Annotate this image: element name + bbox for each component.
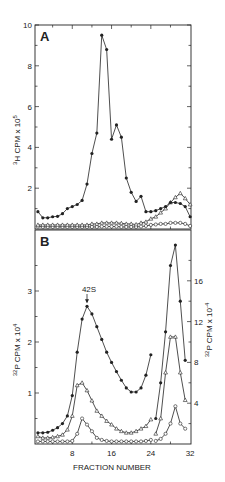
filled-circle-marker xyxy=(164,330,167,333)
open-circle-marker xyxy=(130,440,133,443)
filled-circle-marker xyxy=(66,414,69,417)
filled-circle-marker xyxy=(41,431,44,434)
open-circle-marker xyxy=(154,439,157,442)
filled-circle-marker xyxy=(46,431,49,434)
filled-circle-marker xyxy=(135,200,138,203)
open-circle-marker xyxy=(105,225,108,228)
filled-circle-marker xyxy=(115,370,118,373)
filled-circle-marker xyxy=(46,216,49,219)
filled-circle-marker xyxy=(159,381,162,384)
open-circle-marker xyxy=(174,221,177,224)
open-circle-marker xyxy=(184,222,187,225)
open-circle-marker xyxy=(159,437,162,440)
open-circle-marker xyxy=(189,224,192,227)
open-circle-marker xyxy=(110,440,113,443)
open-triangle-marker xyxy=(80,381,84,384)
panel-b-plot: 1234812168162432 xyxy=(28,230,204,458)
y-tick-label: 6 xyxy=(28,103,33,112)
open-circle-marker xyxy=(71,439,74,442)
filled-circle-marker xyxy=(144,210,147,213)
filled-circle-marker xyxy=(169,201,172,204)
y-axis-title-b-left: 32P CPM x 104 xyxy=(12,323,22,376)
y-tick-label: 8 xyxy=(28,62,33,71)
x-axis-label: FRACTION NUMBER xyxy=(73,463,151,472)
y-tick-label-right: 4 xyxy=(194,399,199,408)
svg-text:32P CPM x 10-4: 32P CPM x 10-4 xyxy=(204,302,214,357)
y-tick-label-right: 8 xyxy=(194,358,199,367)
open-circle-marker xyxy=(169,221,172,224)
open-circle-marker xyxy=(154,223,157,226)
open-circle-marker xyxy=(149,438,152,441)
open-circle-marker xyxy=(41,440,44,443)
y-axis-title-a: 3H CPM x 105 xyxy=(12,114,22,164)
open-triangle-marker xyxy=(178,191,182,194)
open-circle-marker xyxy=(95,225,98,228)
filled-circle-marker xyxy=(105,48,108,51)
open-circle-marker xyxy=(184,427,187,430)
filled-circle-marker xyxy=(66,207,69,210)
open-circle-marker xyxy=(125,440,128,443)
open-circle-marker xyxy=(125,225,128,228)
y-tick-label: 2 xyxy=(28,184,33,193)
y-tick-label: 1 xyxy=(28,389,33,398)
y-axis-title-b-right: 32P CPM x 10-4 xyxy=(204,302,214,357)
filled-circle-marker xyxy=(115,123,118,126)
open-circle-marker xyxy=(164,222,167,225)
panel-a-label: A xyxy=(40,29,50,44)
filled-circle-marker xyxy=(105,351,108,354)
filled-circle-marker xyxy=(125,176,128,179)
filled-circle-marker xyxy=(179,300,182,303)
open-circle-marker xyxy=(46,440,49,443)
filled-circle-marker xyxy=(154,417,157,420)
y-tick-label: 4 xyxy=(28,143,33,152)
x-tick-label: 32 xyxy=(186,449,195,458)
filled-circle-marker xyxy=(71,394,74,397)
open-triangle-marker xyxy=(183,398,187,401)
y-tick-label-right: 16 xyxy=(194,277,203,286)
series-line xyxy=(38,306,151,432)
filled-circle-marker xyxy=(110,138,113,141)
open-triangle-marker xyxy=(36,434,40,437)
open-circle-marker xyxy=(56,440,59,443)
open-circle-marker xyxy=(110,225,113,228)
filled-circle-marker xyxy=(61,212,64,215)
open-circle-marker xyxy=(105,439,108,442)
filled-circle-marker xyxy=(90,312,93,315)
filled-circle-marker xyxy=(95,325,98,328)
filled-circle-marker xyxy=(149,210,152,213)
open-triangle-marker xyxy=(144,220,148,223)
open-triangle-marker xyxy=(95,409,99,412)
open-circle-marker xyxy=(81,417,84,420)
open-circle-marker xyxy=(179,221,182,224)
filled-circle-marker xyxy=(90,152,93,155)
y-tick-label: 3 xyxy=(28,287,33,296)
filled-circle-marker xyxy=(100,338,103,341)
open-circle-marker xyxy=(139,225,142,228)
filled-circle-marker xyxy=(144,374,147,377)
filled-circle-marker xyxy=(139,195,142,198)
filled-circle-marker xyxy=(120,379,123,382)
filled-circle-marker xyxy=(51,215,54,218)
filled-circle-marker xyxy=(85,183,88,186)
x-tick-label: 8 xyxy=(70,449,75,458)
open-triangle-marker xyxy=(154,432,158,435)
panel-a-plot: 246810 xyxy=(23,21,192,229)
open-circle-marker xyxy=(85,423,88,426)
series-line xyxy=(38,35,190,218)
open-circle-marker xyxy=(90,430,93,433)
series-line xyxy=(38,383,151,438)
filled-circle-marker xyxy=(130,390,133,393)
filled-circle-marker xyxy=(169,264,172,267)
svg-text:3H CPM x 105: 3H CPM x 105 xyxy=(12,114,22,164)
open-triangle-marker xyxy=(90,399,94,402)
svg-text:32P CPM x 104: 32P CPM x 104 xyxy=(12,323,22,376)
filled-circle-marker xyxy=(174,201,177,204)
open-circle-marker xyxy=(149,223,152,226)
open-circle-marker xyxy=(95,436,98,439)
open-circle-marker xyxy=(144,224,147,227)
open-circle-marker xyxy=(179,422,182,425)
y-tick-label-right: 12 xyxy=(194,318,203,327)
open-circle-marker xyxy=(61,440,64,443)
filled-circle-marker xyxy=(184,359,187,362)
filled-circle-marker xyxy=(56,215,59,218)
